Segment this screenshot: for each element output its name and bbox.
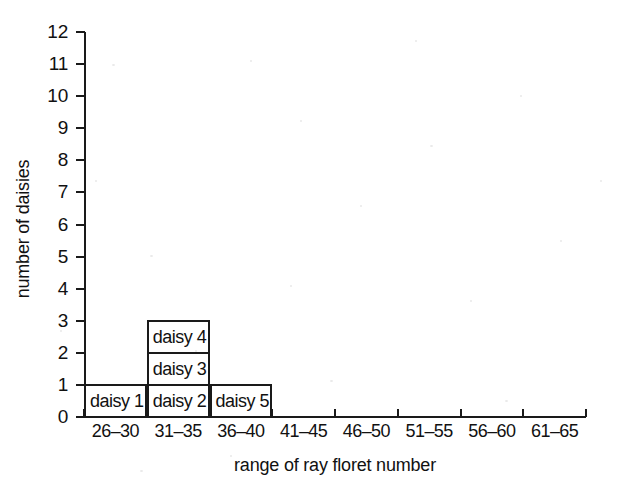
- y-axis-tick: [76, 320, 85, 322]
- bar-segment-label: daisy 5: [212, 391, 270, 411]
- y-axis-tick-label: 1: [0, 375, 68, 394]
- scan-speckle: [430, 145, 433, 147]
- scan-speckle: [95, 180, 97, 182]
- y-axis-tick-label: 4: [0, 279, 68, 298]
- y-axis-tick: [76, 256, 85, 258]
- scan-speckle: [112, 64, 115, 66]
- histogram-chart: 0123456789101112 26–3031–3536–4041–4546–…: [0, 0, 620, 494]
- x-axis-tick: [397, 409, 399, 417]
- x-axis-tick-label: 31–35: [147, 421, 210, 441]
- x-axis-tick: [460, 409, 462, 417]
- y-axis-tick: [76, 31, 85, 33]
- y-axis-tick-label: 7: [0, 182, 68, 201]
- x-axis-tick-label: 51–55: [398, 421, 461, 441]
- scan-speckle: [600, 180, 602, 182]
- y-axis-tick-label: 5: [0, 247, 68, 266]
- bar-segment: daisy 1: [84, 384, 147, 418]
- y-axis-tick: [76, 159, 85, 161]
- y-axis-tick-label: 12: [0, 22, 68, 41]
- y-axis-tick-label: 6: [0, 215, 68, 234]
- scan-speckle: [520, 95, 522, 97]
- y-axis-tick: [76, 288, 85, 290]
- y-axis-tick-label: 2: [0, 343, 68, 362]
- y-axis-tick: [76, 95, 85, 97]
- bar-segment-label: daisy 3: [149, 359, 207, 379]
- y-axis-tick-label: 9: [0, 118, 68, 137]
- x-axis-title: range of ray floret number: [84, 455, 586, 475]
- scan-speckle: [560, 240, 562, 242]
- y-axis-tick-label: 0: [0, 407, 68, 426]
- x-axis-tick-label: 41–45: [272, 421, 335, 441]
- y-axis-tick-label: 3: [0, 311, 68, 330]
- y-axis-tick: [76, 63, 85, 65]
- bar-segment-label: daisy 1: [86, 391, 144, 411]
- y-axis-tick-label: 11: [0, 54, 68, 73]
- scan-speckle: [290, 285, 292, 287]
- scan-speckle: [415, 40, 417, 42]
- y-axis-tick-label: 8: [0, 150, 68, 169]
- scan-speckle: [150, 255, 153, 257]
- x-axis-tick-label: 46–50: [335, 421, 398, 441]
- scan-speckle: [505, 400, 508, 402]
- x-axis-tick-label: 56–60: [461, 421, 524, 441]
- bar-segment: daisy 5: [210, 384, 273, 418]
- x-axis-tick: [522, 409, 524, 417]
- y-axis-tick-label: 10: [0, 86, 68, 105]
- scan-speckle: [360, 205, 362, 207]
- scan-speckle: [300, 120, 302, 122]
- x-axis-tick: [585, 409, 587, 417]
- y-axis-tick: [76, 224, 85, 226]
- bar-segment: daisy 2: [147, 384, 210, 418]
- bar-segment: daisy 3: [147, 352, 210, 386]
- y-axis-tick: [76, 191, 85, 193]
- y-axis-tick: [76, 127, 85, 129]
- scan-speckle: [250, 60, 252, 62]
- scan-speckle: [330, 380, 333, 382]
- x-axis-tick-label: 26–30: [84, 421, 147, 441]
- bar-segment-label: daisy 2: [149, 391, 207, 411]
- x-axis-tick-label: 61–65: [523, 421, 586, 441]
- bar-segment: daisy 4: [147, 320, 210, 354]
- y-axis-title: number of daisies: [13, 144, 33, 314]
- bar-segment-label: daisy 4: [149, 327, 207, 347]
- x-axis-tick-label: 36–40: [210, 421, 273, 441]
- scan-speckle: [470, 300, 472, 302]
- x-axis-tick: [334, 409, 336, 417]
- y-axis-tick: [76, 352, 85, 354]
